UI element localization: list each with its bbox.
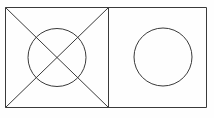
figure-svg [0, 0, 214, 118]
outer-rectangle [6, 8, 207, 108]
right-circle [134, 28, 192, 86]
figure-canvas [0, 0, 214, 118]
